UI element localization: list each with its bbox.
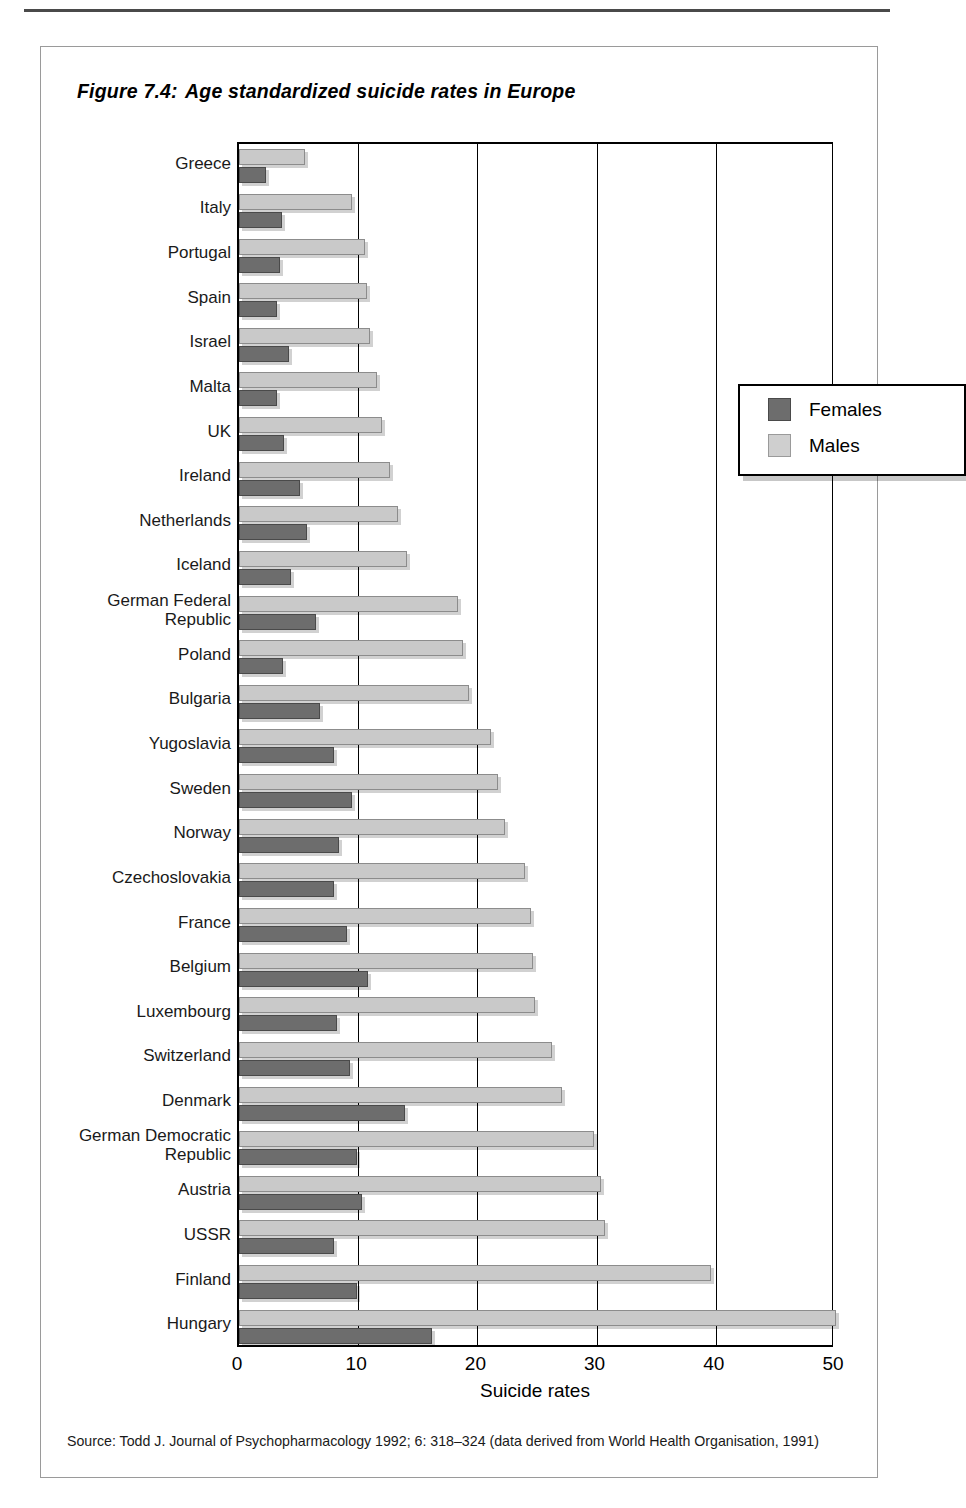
figure-container: Figure 7.4:Age standardized suicide rate… [40, 46, 878, 1478]
bar-males [239, 1042, 552, 1058]
x-tick-30: 30 [584, 1353, 605, 1375]
y-label-yugoslavia: Yugoslavia [51, 734, 231, 753]
top-divider-rule [24, 9, 890, 12]
bar-males [239, 462, 390, 478]
y-label-iceland: Iceland [51, 555, 231, 574]
y-label-portugal: Portugal [51, 243, 231, 262]
plot-area [237, 142, 833, 1347]
bar-females [239, 1149, 357, 1165]
bar-males [239, 372, 377, 388]
y-label-uk: UK [51, 422, 231, 441]
y-label-german-democratic-republic: German Democratic Republic [51, 1126, 231, 1164]
bar-females [239, 747, 334, 763]
bar-females [239, 1060, 350, 1076]
bar-females [239, 837, 339, 853]
bar-males [239, 328, 370, 344]
y-label-norway: Norway [51, 823, 231, 842]
y-axis-category-labels: GreeceItalyPortugalSpainIsraelMaltaUKIre… [51, 142, 231, 1347]
bar-row [239, 903, 832, 948]
chart-legend: Females Males [738, 384, 966, 476]
bar-males [239, 1220, 605, 1236]
bar-row [239, 1304, 832, 1349]
bar-males [239, 1265, 711, 1281]
legend-item-males: Males [768, 434, 860, 457]
bar-females [239, 257, 280, 273]
y-label-luxembourg: Luxembourg [51, 1002, 231, 1021]
bar-males [239, 551, 407, 567]
bar-row [239, 323, 832, 368]
bar-row [239, 813, 832, 858]
figure-title: Figure 7.4:Age standardized suicide rate… [77, 80, 576, 103]
bar-females [239, 167, 266, 183]
bar-row [239, 233, 832, 278]
bar-males [239, 1087, 562, 1103]
legend-label-females: Females [809, 399, 882, 421]
bar-males [239, 1176, 601, 1192]
bar-row [239, 1037, 832, 1082]
bar-rows [239, 144, 832, 1345]
bar-males [239, 239, 365, 255]
bar-females [239, 524, 307, 540]
bar-females [239, 703, 320, 719]
bar-males [239, 774, 498, 790]
legend-swatch-females-icon [768, 398, 791, 421]
bar-males [239, 417, 382, 433]
x-tick-10: 10 [346, 1353, 367, 1375]
bar-males [239, 640, 463, 656]
y-label-finland: Finland [51, 1270, 231, 1289]
bar-row [239, 501, 832, 546]
x-tick-40: 40 [703, 1353, 724, 1375]
x-tick-0: 0 [232, 1353, 243, 1375]
bar-females [239, 212, 282, 228]
bar-females [239, 346, 289, 362]
legend-swatch-males-icon [768, 434, 791, 457]
bar-males [239, 596, 458, 612]
bar-males [239, 863, 525, 879]
bar-females [239, 1015, 337, 1031]
bar-males [239, 1131, 594, 1147]
bar-males [239, 908, 531, 924]
bar-row [239, 1215, 832, 1260]
legend-item-females: Females [768, 398, 882, 421]
bar-females [239, 1328, 432, 1344]
y-label-denmark: Denmark [51, 1091, 231, 1110]
bar-row [239, 1126, 832, 1171]
bar-males [239, 685, 469, 701]
bar-females [239, 1238, 334, 1254]
bar-females [239, 301, 277, 317]
bar-males [239, 149, 305, 165]
x-tick-20: 20 [465, 1353, 486, 1375]
bar-row [239, 1260, 832, 1305]
y-label-switzerland: Switzerland [51, 1046, 231, 1065]
bar-row [239, 635, 832, 680]
bar-females [239, 1283, 357, 1299]
bar-males [239, 506, 398, 522]
bar-females [239, 881, 334, 897]
y-label-sweden: Sweden [51, 779, 231, 798]
y-label-ussr: USSR [51, 1225, 231, 1244]
bar-row [239, 590, 832, 635]
y-label-bulgaria: Bulgaria [51, 689, 231, 708]
figure-number: Figure 7.4: [77, 80, 185, 103]
y-label-greece: Greece [51, 154, 231, 173]
chart-plot-wrapper: GreeceItalyPortugalSpainIsraelMaltaUKIre… [237, 142, 833, 1347]
bar-females [239, 435, 284, 451]
bar-males [239, 997, 535, 1013]
bar-males [239, 194, 352, 210]
bar-females [239, 658, 283, 674]
figure-title-text: Age standardized suicide rates in Europe [185, 80, 576, 102]
bar-row [239, 724, 832, 769]
y-label-belgium: Belgium [51, 957, 231, 976]
x-tick-50: 50 [822, 1353, 843, 1375]
bar-row [239, 546, 832, 591]
bar-males [239, 953, 533, 969]
legend-label-males: Males [809, 435, 860, 457]
bar-row [239, 680, 832, 725]
bar-row [239, 858, 832, 903]
bar-females [239, 614, 316, 630]
bar-row [239, 992, 832, 1037]
y-label-poland: Poland [51, 645, 231, 664]
bar-females [239, 971, 368, 987]
bar-males [239, 283, 367, 299]
bar-males [239, 819, 505, 835]
